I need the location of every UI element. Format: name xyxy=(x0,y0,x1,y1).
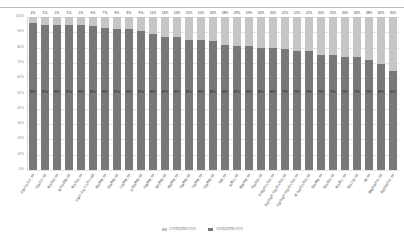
bar-segment-male[interactable]: 74% xyxy=(353,57,361,170)
bar-segment-male[interactable]: 92% xyxy=(125,29,133,170)
bar-segment-female[interactable]: 5% xyxy=(65,17,73,25)
stacked-bar[interactable]: 16%84% xyxy=(209,17,217,170)
bar-segment-female[interactable]: 13% xyxy=(161,17,169,37)
x-axis-category-labels: お茶の水女子大学奈良女子大学東京芸術大学東京外国語大学東京学芸大学お茶の水女子大… xyxy=(27,172,399,224)
bar-segment-female[interactable]: 7% xyxy=(101,17,109,28)
stacked-bar[interactable]: 26%74% xyxy=(341,17,349,170)
bar-segment-male[interactable]: 80% xyxy=(257,48,265,170)
bar-slot: 19%81% xyxy=(243,17,255,170)
bar-segment-female[interactable]: 13% xyxy=(173,17,181,37)
bar-segment-male[interactable]: 74% xyxy=(341,57,349,170)
bar-segment-female[interactable]: 5% xyxy=(41,17,49,25)
stacked-bar[interactable]: 13%87% xyxy=(161,17,169,170)
bar-segment-male[interactable]: 80% xyxy=(269,48,277,170)
bar-segment-female[interactable]: 35% xyxy=(389,17,397,71)
stacked-bar[interactable]: 20%80% xyxy=(257,17,265,170)
stacked-bar[interactable]: 5%95% xyxy=(65,17,73,170)
bar-segment-female[interactable]: 6% xyxy=(89,17,97,26)
bar-segment-male[interactable]: 96% xyxy=(29,23,37,170)
bar-segment-male[interactable]: 87% xyxy=(173,37,181,170)
stacked-bar[interactable]: 19%81% xyxy=(233,17,241,170)
bar-segment-male[interactable]: 65% xyxy=(389,71,397,170)
stacked-bar[interactable]: 35%65% xyxy=(389,17,397,170)
bar-segment-female[interactable]: 8% xyxy=(125,17,133,29)
bar-segment-female[interactable]: 28% xyxy=(365,17,373,60)
stacked-bar[interactable]: 9%91% xyxy=(137,17,145,170)
stacked-bar[interactable]: 8%92% xyxy=(125,17,133,170)
bar-segment-male[interactable]: 79% xyxy=(281,49,289,170)
bar-segment-male[interactable]: 95% xyxy=(77,25,85,170)
bar-segment-male[interactable]: 91% xyxy=(137,31,145,170)
stacked-bar[interactable]: 15%85% xyxy=(185,17,193,170)
stacked-bar[interactable]: 20%80% xyxy=(269,17,277,170)
bar-segment-male[interactable]: 93% xyxy=(101,28,109,170)
bar-segment-male[interactable]: 87% xyxy=(161,37,169,170)
bar-segment-male[interactable]: 75% xyxy=(317,55,325,170)
bar-segment-male[interactable]: 85% xyxy=(197,40,205,170)
bar-segment-male[interactable]: 75% xyxy=(329,55,337,170)
stacked-bar[interactable]: 5%95% xyxy=(41,17,49,170)
bar-segment-female[interactable]: 11% xyxy=(149,17,157,34)
bar-segment-male[interactable]: 85% xyxy=(185,40,193,170)
stacked-bar[interactable]: 13%87% xyxy=(173,17,181,170)
bar-segment-female[interactable]: 15% xyxy=(197,17,205,40)
stacked-bar[interactable]: 7%93% xyxy=(101,17,109,170)
bar-segment-female[interactable]: 20% xyxy=(269,17,277,48)
bar-segment-male[interactable]: 95% xyxy=(41,25,49,170)
bar-segment-male[interactable]: 69% xyxy=(377,64,385,170)
bar-segment-female[interactable]: 31% xyxy=(377,17,385,64)
bar-segment-female[interactable]: 19% xyxy=(245,17,253,46)
stacked-bar[interactable]: 8%92% xyxy=(113,17,121,170)
bar-segment-female[interactable]: 15% xyxy=(185,17,193,40)
bar-segment-male[interactable]: 95% xyxy=(53,25,61,170)
bar-segment-female[interactable]: 26% xyxy=(341,17,349,57)
bar-segment-female[interactable]: 22% xyxy=(293,17,301,51)
stacked-bar[interactable]: 22%78% xyxy=(293,17,301,170)
bar-segment-female[interactable]: 18% xyxy=(221,17,229,45)
bar-segment-male[interactable]: 81% xyxy=(245,46,253,170)
stacked-bar[interactable]: 15%85% xyxy=(197,17,205,170)
bar-segment-female[interactable]: 22% xyxy=(305,17,313,51)
stacked-bar[interactable]: 28%72% xyxy=(365,17,373,170)
x-label-slot: 長岡技術科学大学 xyxy=(387,172,399,224)
stacked-bar[interactable]: 11%89% xyxy=(149,17,157,170)
stacked-bar[interactable]: 25%75% xyxy=(317,17,325,170)
bar-slot: 11%89% xyxy=(147,17,159,170)
bar-segment-male[interactable]: 81% xyxy=(233,46,241,170)
bar-segment-female[interactable]: 25% xyxy=(317,17,325,55)
bar-segment-female[interactable]: 8% xyxy=(113,17,121,29)
bar-segment-female[interactable]: 26% xyxy=(353,17,361,57)
stacked-bar[interactable]: 6%94% xyxy=(89,17,97,170)
stacked-bar[interactable]: 4%96% xyxy=(29,17,37,170)
bar-segment-male[interactable]: 78% xyxy=(305,51,313,170)
stacked-bar[interactable]: 5%95% xyxy=(77,17,85,170)
bar-segment-male[interactable]: 95% xyxy=(65,25,73,170)
bar-segment-male[interactable]: 94% xyxy=(89,26,97,170)
bar-segment-male[interactable]: 78% xyxy=(293,51,301,170)
stacked-bar[interactable]: 22%78% xyxy=(305,17,313,170)
bar-segment-male[interactable]: 84% xyxy=(209,41,217,170)
bar-segment-female[interactable]: 16% xyxy=(209,17,217,41)
stacked-bar[interactable]: 5%95% xyxy=(53,17,61,170)
bar-segment-female[interactable]: 9% xyxy=(137,17,145,31)
bar-segment-male[interactable]: 92% xyxy=(113,29,121,170)
bar-segment-male[interactable]: 82% xyxy=(221,45,229,170)
bar-segment-male[interactable]: 89% xyxy=(149,34,157,170)
stacked-bar[interactable]: 31%69% xyxy=(377,17,385,170)
stacked-bar[interactable]: 25%75% xyxy=(329,17,337,170)
bar-segment-female[interactable]: 20% xyxy=(257,17,265,48)
bar-segment-female[interactable]: 19% xyxy=(233,17,241,46)
bar-mid-value-label: 95% xyxy=(66,92,72,95)
legend-item[interactable]: 女性教員等数の割合 xyxy=(162,228,197,231)
bar-mid-value-label: 95% xyxy=(54,92,60,95)
stacked-bar[interactable]: 26%74% xyxy=(353,17,361,170)
bar-segment-female[interactable]: 21% xyxy=(281,17,289,49)
bar-segment-male[interactable]: 72% xyxy=(365,60,373,170)
bar-segment-female[interactable]: 5% xyxy=(53,17,61,25)
bar-segment-female[interactable]: 5% xyxy=(77,17,85,25)
legend-item[interactable]: 男性教員等数の割合 xyxy=(208,228,243,231)
stacked-bar[interactable]: 19%81% xyxy=(245,17,253,170)
stacked-bar[interactable]: 18%82% xyxy=(221,17,229,170)
bar-segment-female[interactable]: 25% xyxy=(329,17,337,55)
stacked-bar[interactable]: 21%79% xyxy=(281,17,289,170)
